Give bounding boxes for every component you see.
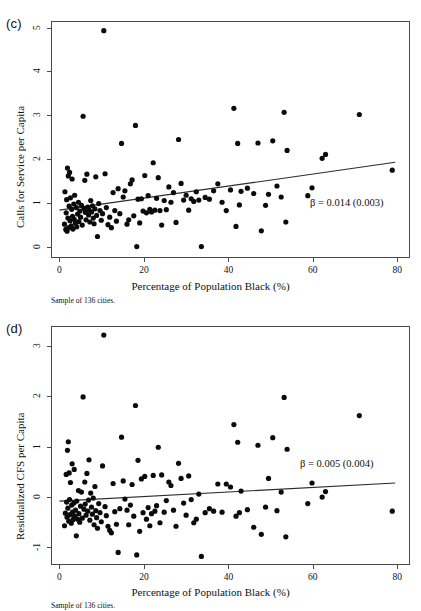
scatter-point [151, 473, 156, 478]
scatter-point [259, 228, 264, 233]
scatter-point [263, 505, 268, 510]
y-tick-mark [47, 346, 51, 347]
scatter-point [129, 482, 134, 487]
y-tick-label: 2 [33, 388, 43, 404]
scatter-point [81, 394, 86, 399]
scatter-point [194, 517, 199, 522]
scatter-point [282, 395, 287, 400]
scatter-point [390, 168, 395, 173]
scatter-point [171, 508, 176, 513]
y-tick-mark [47, 247, 51, 248]
scatter-point [78, 215, 83, 220]
y-tick-label: 2 [33, 151, 43, 167]
scatter-point [245, 507, 250, 512]
scatter-point [159, 222, 164, 227]
panel-c-x-axis-label: Percentage of Population Black (%) [0, 280, 421, 292]
scatter-point [121, 194, 126, 199]
scatter-point [144, 517, 149, 522]
scatter-point [142, 173, 147, 178]
scatter-point [107, 215, 112, 220]
scatter-point [95, 234, 100, 239]
scatter-point [110, 481, 115, 486]
scatter-point [178, 181, 183, 186]
scatter-point [68, 480, 73, 485]
scatter-point [112, 509, 117, 514]
scatter-point [203, 510, 208, 515]
scatter-point [237, 510, 242, 515]
scatter-point [323, 489, 328, 494]
scatter-point [235, 440, 240, 445]
scatter-point [191, 199, 196, 204]
scatter-point [156, 175, 161, 180]
x-tick-label: 80 [385, 265, 409, 275]
scatter-point [184, 193, 189, 198]
scatter-point [157, 520, 162, 525]
scatter-point [320, 156, 325, 161]
scatter-point [142, 474, 147, 479]
scatter-point [96, 501, 101, 506]
scatter-point [97, 510, 102, 515]
scatter-point [79, 489, 84, 494]
scatter-point [219, 200, 224, 205]
x-tick-label: 20 [132, 265, 156, 275]
scatter-point [84, 172, 89, 177]
scatter-point [62, 523, 67, 528]
scatter-point [199, 244, 204, 249]
scatter-point [87, 518, 92, 523]
scatter-point [116, 550, 121, 555]
scatter-point [357, 112, 362, 117]
scatter-point [164, 207, 169, 212]
scatter-point [114, 522, 119, 527]
scatter-point [157, 208, 162, 213]
scatter-point [117, 506, 122, 511]
scatter-point [282, 110, 287, 115]
scatter-point [274, 508, 279, 513]
scatter-point [283, 534, 288, 539]
scatter-point [69, 207, 74, 212]
scatter-point [82, 178, 87, 183]
scatter-point [76, 511, 81, 516]
scatter-point [178, 476, 183, 481]
scatter-point [126, 522, 131, 527]
scatter-point [255, 140, 260, 145]
scatter-point [117, 211, 122, 216]
scatter-point [238, 189, 243, 194]
scatter-point [224, 481, 229, 486]
scatter-point [186, 208, 191, 213]
scatter-point [91, 495, 96, 500]
panel-d-sample-note: Sample of 136 cities. [51, 601, 115, 610]
y-tick-mark [47, 115, 51, 116]
scatter-point [211, 509, 216, 514]
scatter-point [96, 201, 101, 206]
panel-c-sample-note: Sample of 136 cities. [51, 296, 115, 305]
scatter-point [99, 218, 104, 223]
scatter-point [194, 189, 199, 194]
scatter-point [166, 184, 171, 189]
scatter-point [219, 510, 224, 515]
scatter-point [119, 141, 124, 146]
scatter-point [91, 221, 96, 226]
y-tick-label: -1 [33, 539, 43, 555]
scatter-point [72, 467, 77, 472]
scatter-point [274, 183, 279, 188]
scatter-point [159, 472, 164, 477]
scatter-point [251, 191, 256, 196]
scatter-point [309, 185, 314, 190]
scatter-point [152, 208, 157, 213]
scatter-point [152, 509, 157, 514]
y-tick-label: 1 [33, 195, 43, 211]
scatter-point [156, 445, 161, 450]
scatter-point [82, 479, 87, 484]
scatter-point [279, 194, 284, 199]
scatter-point [270, 435, 275, 440]
scatter-point [266, 192, 271, 197]
scatter-point [168, 483, 173, 488]
scatter-point [133, 403, 138, 408]
scatter-point [173, 524, 178, 529]
y-tick-mark [47, 159, 51, 160]
scatter-point [137, 529, 142, 534]
y-tick-mark [47, 28, 51, 29]
scatter-point [62, 222, 67, 227]
y-tick-label: 0 [33, 239, 43, 255]
scatter-point [266, 476, 271, 481]
